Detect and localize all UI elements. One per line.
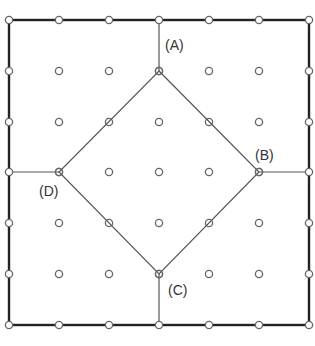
grid-point [255, 270, 262, 277]
label-d: (D) [39, 184, 58, 198]
grid-point [5, 118, 12, 125]
grid-point [155, 118, 162, 125]
label-b: (B) [255, 148, 274, 162]
grid-point [55, 270, 62, 277]
grid-point [305, 321, 312, 328]
grid-point [255, 16, 262, 23]
grid-point [5, 67, 12, 74]
grid-point [155, 168, 162, 175]
grid-point [205, 321, 212, 328]
grid-point [5, 270, 12, 277]
grid-point [105, 16, 112, 23]
grid-point [305, 270, 312, 277]
grid-point [205, 16, 212, 23]
grid-point [305, 16, 312, 23]
grid-point [105, 321, 112, 328]
label-c: (C) [168, 283, 187, 297]
grid-point [5, 168, 12, 175]
grid-point [155, 16, 162, 23]
grid-point [55, 118, 62, 125]
grid-point [205, 67, 212, 74]
grid-point [155, 321, 162, 328]
grid-point [155, 219, 162, 226]
label-a: (A) [165, 38, 184, 52]
grid-points [55, 67, 262, 277]
grid-point [255, 321, 262, 328]
grid-point [305, 118, 312, 125]
grid-point [105, 67, 112, 74]
grid-point [255, 219, 262, 226]
grid-point [305, 67, 312, 74]
grid-point [55, 321, 62, 328]
grid-point [105, 168, 112, 175]
grid-point [105, 270, 112, 277]
grid-point [305, 219, 312, 226]
grid-point [5, 321, 12, 328]
grid-point [55, 16, 62, 23]
grid-point [255, 118, 262, 125]
grid-point [255, 67, 262, 74]
grid-diagram [0, 0, 315, 346]
grid-point [205, 270, 212, 277]
grid-point [55, 67, 62, 74]
grid-point [205, 168, 212, 175]
grid-point [5, 16, 12, 23]
grid-point [55, 219, 62, 226]
grid-point [5, 219, 12, 226]
grid-point [305, 168, 312, 175]
